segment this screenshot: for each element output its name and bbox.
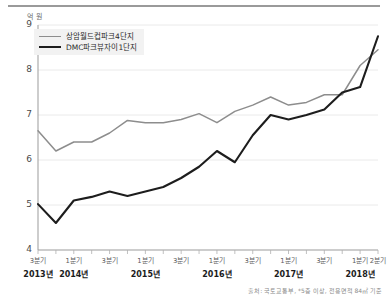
- x-quarter-label-18: 1분기: [352, 255, 368, 265]
- x-axis-ticks: [38, 250, 378, 254]
- x-quarter-label-8: 3분기: [173, 255, 189, 265]
- y-tick-label-9: 9: [16, 19, 32, 29]
- x-year-label-2017년: 2017년: [274, 268, 303, 279]
- y-tick-label-5: 5: [16, 199, 32, 209]
- x-quarter-label-12: 3분기: [245, 255, 261, 265]
- x-year-label-2016년: 2016년: [202, 268, 231, 279]
- legend-label-0: 상암월드컵파크4단지: [66, 33, 134, 41]
- legend-label-1: DMC파크뷰자이1단지: [66, 44, 137, 52]
- chart-legend: 상암월드컵파크4단지 DMC파크뷰자이1단지: [34, 29, 144, 55]
- chart-figure: 억 원 987654 상암월드컵파크4단지 DMC파크뷰자이1단지 3분기1분기…: [0, 0, 388, 302]
- legend-item-1: DMC파크뷰자이1단지: [39, 44, 137, 52]
- x-year-label-2018년: 2018년: [345, 268, 374, 279]
- legend-item-0: 상암월드컵파크4단지: [39, 33, 137, 41]
- source-note: 출처: 국토교통부, *5층 이상, 전용면적 84㎡ 기준: [248, 286, 382, 295]
- x-quarter-label-2: 1분기: [66, 255, 82, 265]
- x-year-label-2015년: 2015년: [131, 268, 160, 279]
- legend-line-icon-0: [39, 36, 61, 37]
- axis-lines: [38, 25, 378, 250]
- y-tick-label-8: 8: [16, 64, 32, 74]
- y-tick-label-6: 6: [16, 154, 32, 164]
- x-quarter-label-14: 1분기: [280, 255, 296, 265]
- x-quarter-label-0: 3분기: [30, 255, 46, 265]
- x-quarter-label-19: 2분기: [370, 255, 386, 265]
- x-quarter-label-4: 3분기: [101, 255, 117, 265]
- x-year-label-2014년: 2014년: [59, 268, 88, 279]
- x-year-label-2013년: 2013년: [23, 268, 52, 279]
- x-quarter-label-10: 1분기: [209, 255, 225, 265]
- series-lines: [38, 36, 378, 223]
- x-quarter-label-6: 1분기: [137, 255, 153, 265]
- y-tick-label-4: 4: [16, 244, 32, 254]
- legend-line-icon-1: [39, 46, 61, 48]
- x-quarter-label-16: 3분기: [316, 255, 332, 265]
- y-tick-label-7: 7: [16, 109, 32, 119]
